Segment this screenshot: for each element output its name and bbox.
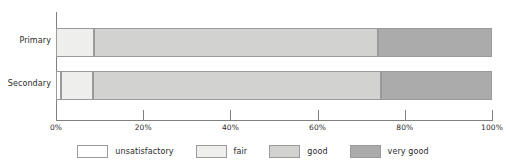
x-axis-tick-label: 40% [222, 123, 239, 132]
category-label-primary: Primary [0, 36, 51, 45]
legend-swatch-unsatisfactory [77, 145, 108, 158]
x-axis-tick [492, 110, 493, 120]
x-axis-tick [318, 110, 319, 120]
bar-segment-good [94, 28, 378, 57]
legend-label: good [307, 147, 327, 156]
category-label-secondary: Secondary [0, 79, 51, 88]
legend-item[interactable]: unsatisfactory [77, 145, 173, 158]
x-axis-tick-label: 60% [309, 123, 326, 132]
x-axis-tick-label: 0% [50, 123, 62, 132]
x-axis-tick [405, 110, 406, 120]
bar-segment-very-good [378, 28, 492, 57]
x-axis-line [56, 120, 493, 121]
legend-item[interactable]: good [269, 145, 327, 158]
x-axis-tick-label: 100% [481, 123, 503, 132]
bar-segment-good [93, 71, 381, 100]
x-axis-tick-label: 80% [396, 123, 413, 132]
x-axis-tick [230, 110, 231, 120]
legend-item[interactable]: fair [196, 145, 248, 158]
legend-item[interactable]: very good [350, 145, 429, 158]
legend-swatch-very-good [350, 145, 381, 158]
legend-label: unsatisfactory [115, 147, 173, 156]
stacked-bar-chart: 0%20%40%60%80%100% Primary Secondary uns… [0, 0, 506, 166]
x-axis-tick [56, 110, 57, 120]
legend-swatch-fair [196, 145, 227, 158]
bar-segment-fair [56, 28, 94, 57]
bar-segment-fair [61, 71, 93, 100]
chart-legend: unsatisfactoryfairgoodvery good [0, 141, 506, 161]
legend-label: very good [388, 147, 429, 156]
bar-segment-very-good [381, 71, 492, 100]
legend-label: fair [234, 147, 248, 156]
x-axis-tick-label: 20% [135, 123, 152, 132]
legend-swatch-good [269, 145, 300, 158]
x-axis-tick [143, 110, 144, 120]
